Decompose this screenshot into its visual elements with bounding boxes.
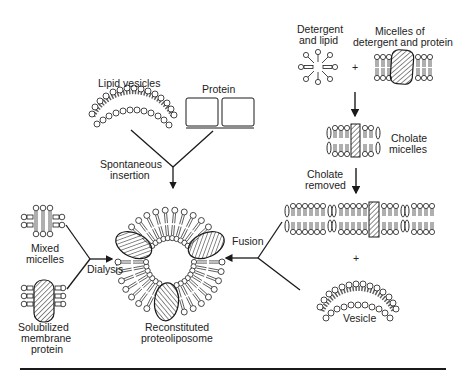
label-protein: Protein [202, 84, 235, 95]
label-lipid-vesicles: Lipid vesicles [98, 78, 160, 89]
label-detergent-and-protein: detergent and protein [353, 37, 453, 48]
label-mixed-micelles: micelles [26, 254, 64, 265]
reconstitution-diagram: Lipid vesicles Protein Spontaneous inser… [0, 0, 467, 385]
label-vesicle: Vesicle [343, 313, 376, 324]
label-micelles: micelles [389, 144, 427, 155]
detergent-protein-micelle-icon [374, 49, 432, 84]
label-dialysis: Dialysis [87, 264, 123, 275]
label-plus-mid: + [353, 253, 359, 264]
label-proteoliposome: proteoliposome [141, 333, 213, 344]
diagram-artwork [0, 0, 467, 385]
proteoliposome-icon [111, 207, 228, 322]
dialysis-connector [66, 225, 112, 289]
label-fusion: Fusion [232, 236, 264, 247]
label-plus-top: + [352, 62, 358, 73]
protein-icon [186, 98, 254, 128]
label-insertion: insertion [110, 170, 150, 181]
cholate-micelle-icon [327, 124, 380, 157]
label-and-lipid: and lipid [299, 35, 338, 46]
label-protein-bottom: protein [31, 344, 63, 355]
fusion-connector [226, 222, 300, 290]
detergent-lipid-icon [298, 49, 337, 84]
lipid-vesicle-icon [89, 85, 177, 128]
solubilized-protein-icon [21, 280, 66, 322]
mixed-micelle-icon [21, 205, 65, 237]
label-cholate-removed-2: removed [305, 180, 346, 191]
bilayer-sheet-icon [285, 202, 435, 237]
